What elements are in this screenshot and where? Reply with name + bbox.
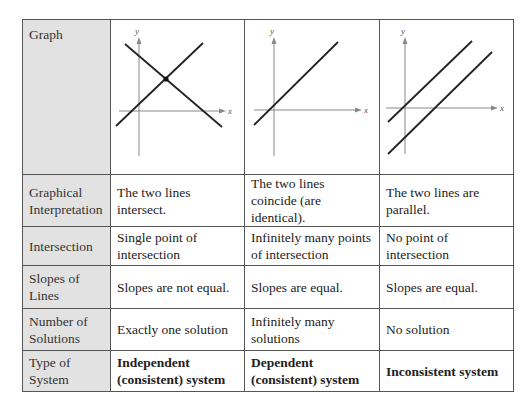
- y-axis-label: y: [269, 26, 274, 36]
- table-row-graph: Graph y x y x: [23, 20, 514, 175]
- x-axis-label: x: [227, 106, 232, 116]
- table-row-intersection: Intersection Single point of intersectio…: [23, 227, 514, 266]
- row-header: Slopes of Lines: [23, 266, 111, 309]
- table-cell: Infinitely many points of intersection: [245, 227, 380, 266]
- coincident-lines-graph: y x: [245, 20, 379, 168]
- x-axis-label: x: [363, 105, 368, 115]
- table-cell: No point of intersection: [380, 227, 514, 266]
- table-cell: Single point of intersection: [111, 227, 245, 266]
- x-axis-label: x: [499, 103, 504, 113]
- row-header-graph: Graph: [23, 20, 111, 175]
- row-header: Type of System: [23, 351, 111, 392]
- table-cell: Inconsistent system: [380, 351, 514, 392]
- table-cell: Independent (consistent) system: [111, 351, 245, 392]
- table-cell: Slopes are equal.: [245, 266, 380, 309]
- graph-cell-coincident: y x: [245, 20, 380, 175]
- table-cell: Infinitely many solutions: [245, 309, 380, 351]
- table-cell: Exactly one solution: [111, 309, 245, 351]
- table-row-graphical-interpretation: Graphical Interpretation The two lines i…: [23, 175, 514, 227]
- table-cell: The two lines are parallel.: [380, 175, 514, 227]
- table-row-slopes: Slopes of Lines Slopes are not equal. Sl…: [23, 266, 514, 309]
- parallel-lines-graph: y x: [380, 20, 513, 168]
- graph-cell-intersecting: y x: [111, 20, 245, 175]
- y-axis-label: y: [134, 26, 139, 36]
- graph-cell-parallel: y x: [380, 20, 514, 175]
- row-header: Intersection: [23, 227, 111, 266]
- table-cell: The two lines intersect.: [111, 175, 245, 227]
- row-header: Number of Solutions: [23, 309, 111, 351]
- table-cell: Dependent (consistent) system: [245, 351, 380, 392]
- table-cell: The two lines coincide (are identical).: [245, 175, 380, 227]
- table-cell: Slopes are not equal.: [111, 266, 245, 309]
- systems-of-equations-table: Graph y x y x: [22, 19, 514, 392]
- y-axis-label: y: [400, 26, 405, 36]
- table-row-type-of-system: Type of System Independent (consistent) …: [23, 351, 514, 392]
- row-header: Graphical Interpretation: [23, 175, 111, 227]
- intersecting-lines-graph: y x: [111, 20, 244, 168]
- table-cell: No solution: [380, 309, 514, 351]
- table-row-number-of-solutions: Number of Solutions Exactly one solution…: [23, 309, 514, 351]
- table-cell: Slopes are equal.: [380, 266, 514, 309]
